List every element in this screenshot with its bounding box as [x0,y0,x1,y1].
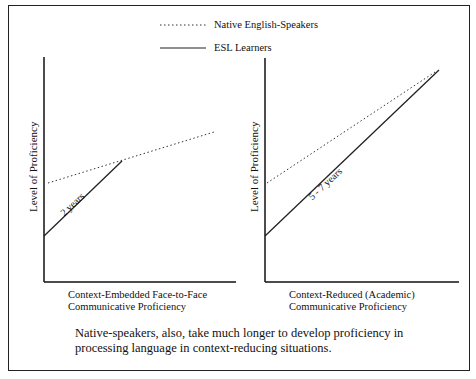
left-x-axis-label-line2: Communicative Proficiency [68,301,186,313]
left-native-line [48,132,214,183]
legend-label-native: Native English-Speakers [214,19,318,31]
legend-label-esl: ESL Learners [214,42,272,54]
right-y-axis-label: Level of Proficiency [248,122,260,212]
left-x-axis-label-line1: Context-Embedded Face-to-Face [68,289,207,301]
caption-line2: processing language in context-reducing … [75,341,332,356]
right-panel-axes [265,58,459,282]
right-x-axis-label-line2: Communicative Proficiency [289,301,407,313]
right-esl-line [265,70,439,236]
caption-line1: Native-speakers, also, take much longer … [75,326,403,341]
right-x-axis-label-line1: Context-Reduced (Academic) [289,289,415,301]
diagram-graphics [0,0,476,379]
left-y-axis-label: Level of Proficiency [27,122,39,212]
left-panel-axes [44,57,236,282]
right-native-line [267,72,435,183]
